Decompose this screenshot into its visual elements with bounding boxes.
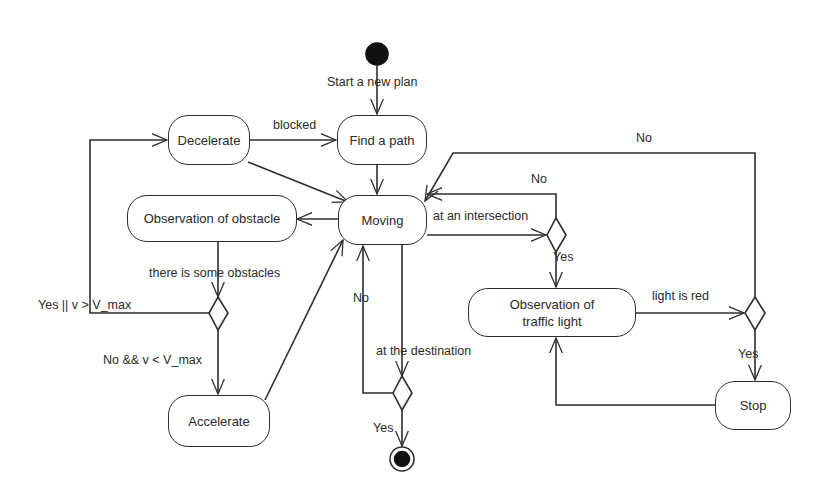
intersection-decision [547,218,566,252]
node-stop: Stop [715,381,791,430]
node-label: Observation of obstacle [144,210,281,227]
label-no-light: No [636,131,652,145]
label-obstacles: there is some obstacles [149,266,280,280]
node-observation-of-traffic-light: Observation of traffic light [468,288,636,337]
light-decision [745,297,765,330]
node-label: Observation of traffic light [493,296,611,330]
node-label: Stop [740,397,767,414]
obstacle-decision [209,297,228,330]
node-observation-of-obstacle: Observation of obstacle [127,195,297,242]
label-yes-vmax: Yes || v > V_max [38,298,131,312]
label-no-intersection: No [531,172,547,186]
label-no-vmax: No && v < V_max [103,353,202,367]
label-blocked: blocked [273,118,316,132]
node-label: Decelerate [178,132,241,149]
destination-decision [393,376,412,410]
node-label: Accelerate [188,413,249,430]
node-label: Moving [362,212,404,229]
label-no-destination: No [353,291,369,305]
label-yes-light: Yes [738,347,758,361]
node-label: Find a path [349,132,414,149]
initial-node [366,43,388,65]
label-at-intersection: at an intersection [433,209,528,223]
node-moving: Moving [338,195,427,245]
label-at-destination: at the destination [376,344,471,358]
final-node-core [395,452,410,467]
node-decelerate: Decelerate [168,115,250,165]
label-yes-destination: Yes [373,421,393,435]
label-light-red: light is red [652,289,709,303]
label-yes-intersection: Yes [553,250,573,264]
node-accelerate: Accelerate [168,395,270,447]
node-find-a-path: Find a path [337,115,427,165]
label-start-plan: Start a new plan [327,75,417,89]
